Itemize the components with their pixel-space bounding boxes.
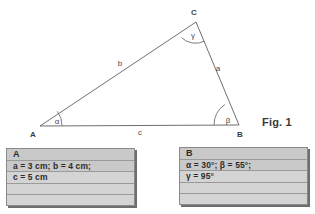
triangle-side-a [196, 22, 239, 125]
angle-arc-beta [214, 105, 225, 126]
triangle-side-b [40, 22, 196, 126]
side-label-b: b [118, 59, 123, 68]
note-row: c = 5 cm [7, 172, 134, 184]
note-row: α = 30°; β = 55°; [180, 160, 307, 172]
angle-label-alpha: α [55, 117, 60, 126]
note-box-a: A a = 3 cm; b = 4 cm; c = 5 cm [6, 148, 135, 206]
note-box-a-line-2: c = 5 cm [13, 172, 48, 182]
side-label-a: a [216, 64, 221, 73]
note-box-b-line-1: α = 30°; β = 55°; [186, 160, 251, 170]
note-box-b: B α = 30°; β = 55°; γ = 95° [179, 147, 308, 205]
side-label-c: c [138, 128, 142, 137]
note-row: A [7, 149, 134, 161]
note-row [180, 183, 307, 195]
angle-label-gamma: γ [191, 31, 195, 40]
note-box-a-title: A [13, 149, 20, 159]
note-row [7, 195, 134, 206]
vertex-label-a: A [30, 130, 36, 139]
note-row [7, 184, 134, 196]
triangle-side-c [40, 125, 239, 126]
vertex-label-b: B [237, 130, 243, 139]
figure-caption: Fig. 1 [262, 116, 292, 128]
angle-label-beta: β [226, 116, 231, 125]
note-row: a = 3 cm; b = 4 cm; [7, 161, 134, 173]
note-box-a-line-1: a = 3 cm; b = 4 cm; [13, 161, 91, 171]
note-row: B [180, 148, 307, 160]
note-box-b-line-2: γ = 95° [186, 171, 214, 181]
vertex-label-c: C [191, 8, 197, 17]
note-row: γ = 95° [180, 171, 307, 183]
figure-page: A B C a b c α β γ Fig. 1 A a = 3 cm; b =… [0, 0, 315, 214]
note-box-b-title: B [186, 148, 193, 158]
note-row [180, 194, 307, 205]
